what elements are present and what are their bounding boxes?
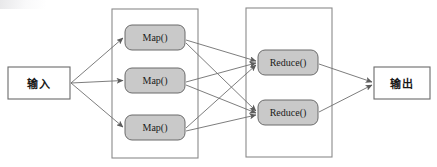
reduce-phase-container: [246, 8, 332, 157]
map-node-shapes: [125, 25, 185, 140]
diagram-canvas: [0, 0, 437, 167]
map-node-2-shape[interactable]: [125, 68, 185, 93]
output-node-shape[interactable]: [374, 67, 430, 99]
map-node-1-shape[interactable]: [125, 25, 185, 50]
map-node-3-shape[interactable]: [125, 115, 185, 140]
mapreduce-diagram: 输入 输出 Map() Map() Map() Reduce() Reduce(…: [0, 0, 437, 167]
input-node-shape[interactable]: [8, 67, 70, 99]
reduce-node-2-shape[interactable]: [258, 100, 318, 125]
reduce-node-1-shape[interactable]: [258, 50, 318, 75]
